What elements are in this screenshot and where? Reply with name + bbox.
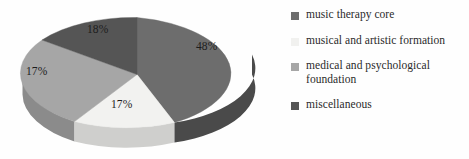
pie-data-label-medical-psychological: 17% (26, 66, 47, 78)
legend-swatch-icon (291, 12, 299, 20)
legend-label: miscellaneous (306, 98, 372, 112)
pie-data-label-music-therapy-core: 48% (196, 41, 217, 53)
pie-data-label-musical-artistic: 17% (111, 99, 132, 111)
legend-item-music-therapy-core[interactable]: music therapy core (291, 8, 469, 22)
pie-data-label-miscellaneous: 18% (87, 24, 108, 36)
legend-item-musical-artistic[interactable]: musical and artistic formation (291, 34, 469, 48)
legend-item-medical-psychological[interactable]: medical and psychological foundation (291, 59, 469, 86)
chart-legend: music therapy core musical and artistic … (291, 8, 469, 112)
pie-graphic (0, 0, 268, 159)
legend-label: music therapy core (306, 8, 394, 22)
pie-chart-figure: 48% 17% 17% 18% music therapy core music… (0, 0, 469, 159)
legend-swatch-icon (291, 102, 299, 110)
legend-label: medical and psychological foundation (306, 59, 469, 86)
legend-swatch-icon (291, 63, 299, 71)
legend-label: musical and artistic formation (306, 34, 445, 48)
legend-swatch-icon (291, 38, 299, 46)
pie-plot-area: 48% 17% 17% 18% (0, 0, 268, 159)
legend-item-miscellaneous[interactable]: miscellaneous (291, 98, 469, 112)
